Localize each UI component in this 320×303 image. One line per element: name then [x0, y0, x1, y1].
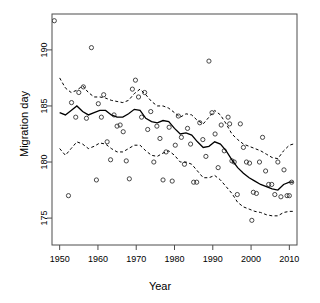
plot-canvas: 1950196019701980199020002010175180185190 — [0, 0, 320, 303]
data-point — [219, 123, 223, 127]
data-point — [188, 142, 192, 146]
data-point — [270, 182, 274, 186]
data-point — [102, 93, 106, 97]
data-point — [257, 160, 261, 164]
data-point — [130, 87, 134, 91]
data-point — [152, 160, 156, 164]
data-point — [155, 124, 159, 128]
data-point — [204, 154, 208, 158]
data-point — [185, 126, 189, 130]
data-point — [201, 137, 205, 141]
data-point — [74, 115, 78, 119]
x-tick-label: 1980 — [164, 254, 184, 264]
data-point — [89, 46, 93, 50]
y-tick-label: 180 — [39, 155, 49, 170]
data-point — [264, 169, 268, 173]
data-point — [52, 19, 56, 23]
data-point — [170, 179, 174, 183]
data-point — [179, 135, 183, 139]
x-tick-label: 1960 — [88, 254, 108, 264]
data-point — [121, 130, 125, 134]
y-axis-title: Migration day — [18, 54, 30, 194]
data-point — [66, 194, 70, 198]
y-tick-label: 175 — [39, 211, 49, 226]
data-point — [173, 143, 177, 147]
data-point — [276, 160, 280, 164]
data-point — [216, 166, 220, 170]
trend-line — [60, 106, 294, 190]
data-point — [235, 192, 239, 196]
data-point — [241, 145, 245, 149]
data-point — [167, 125, 171, 129]
plot-box — [52, 14, 297, 245]
x-tick-label: 1970 — [126, 254, 146, 264]
data-point — [146, 127, 150, 131]
y-tick-label: 185 — [39, 98, 49, 113]
data-point — [238, 122, 242, 126]
data-point — [226, 115, 230, 119]
data-point — [127, 177, 131, 181]
x-tick-label: 2000 — [241, 254, 261, 264]
data-point — [228, 122, 232, 126]
migration-day-scatter-chart: 1950196019701980199020002010175180185190… — [0, 0, 320, 303]
data-point — [158, 136, 162, 140]
data-point — [136, 95, 140, 99]
data-point — [84, 116, 88, 120]
data-point — [105, 140, 109, 144]
x-tick-label: 1990 — [203, 254, 223, 264]
data-point — [133, 78, 137, 82]
data-point — [279, 195, 283, 199]
data-point — [260, 135, 264, 139]
data-point — [161, 178, 165, 182]
data-point — [99, 115, 103, 119]
data-point — [250, 218, 254, 222]
data-point — [124, 159, 128, 163]
data-point — [149, 109, 153, 113]
data-point — [213, 132, 217, 136]
data-point — [96, 102, 100, 106]
data-point — [139, 115, 143, 119]
plot-area — [52, 19, 294, 223]
data-point — [195, 180, 199, 184]
data-point — [207, 59, 211, 63]
y-tick-label: 190 — [39, 42, 49, 57]
x-tick-label: 2010 — [279, 254, 299, 264]
data-point — [282, 168, 286, 172]
data-point — [94, 178, 98, 182]
x-axis-title: Year — [0, 280, 320, 292]
x-tick-label: 1950 — [50, 254, 70, 264]
data-point — [108, 158, 112, 162]
data-point — [69, 100, 73, 104]
data-point — [77, 90, 81, 94]
data-point — [273, 192, 277, 196]
data-point — [182, 162, 186, 166]
